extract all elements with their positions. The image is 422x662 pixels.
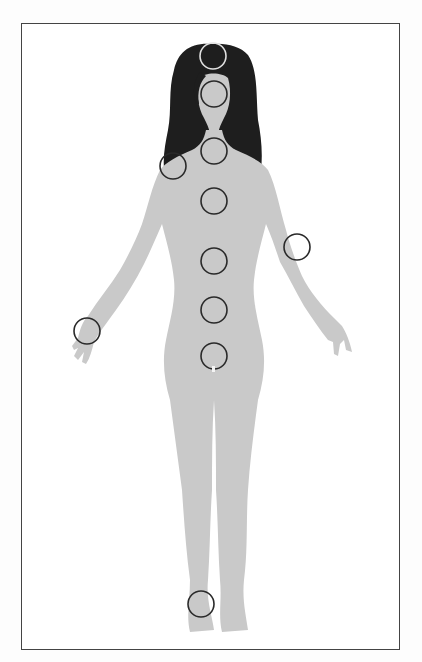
body-silhouette bbox=[72, 74, 352, 633]
pelvis-gap bbox=[212, 366, 215, 372]
body-diagram bbox=[0, 0, 422, 662]
